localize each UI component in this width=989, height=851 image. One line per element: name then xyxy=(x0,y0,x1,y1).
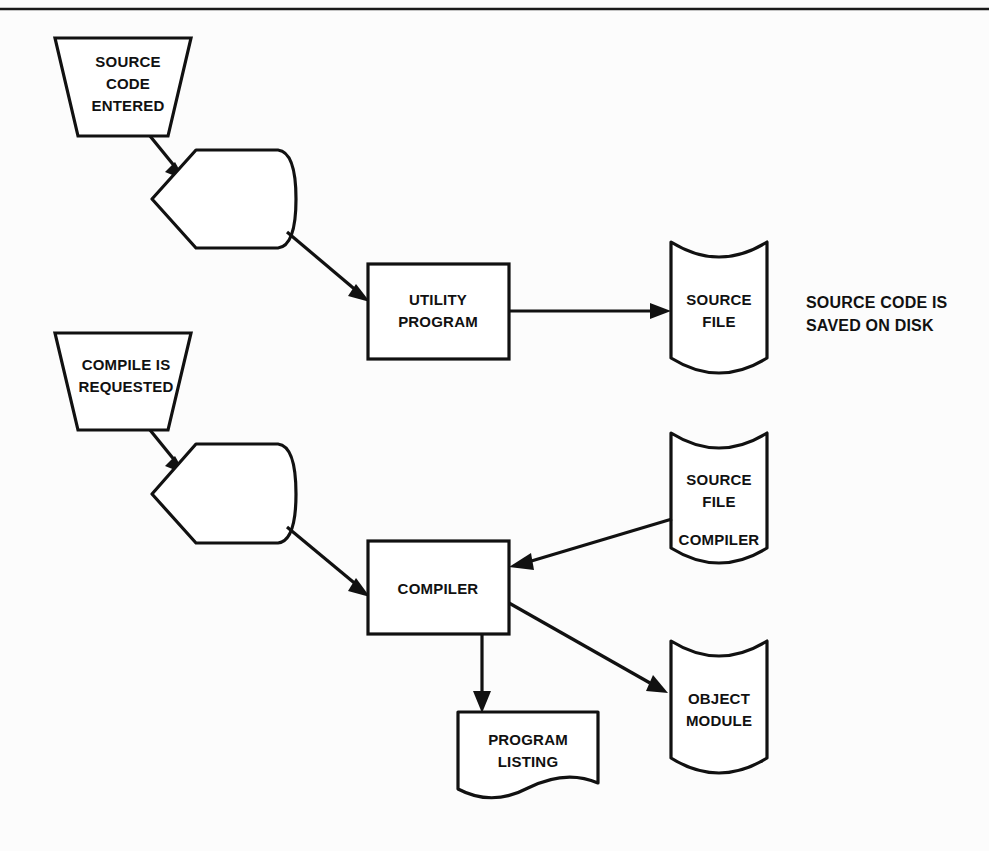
node-compiler-line1: COMPILER xyxy=(398,580,479,597)
node-object-module-disk: OBJECT MODULE xyxy=(671,641,767,773)
stored-data-drum-object-module xyxy=(671,641,767,773)
node-source-file-disk-line1: SOURCE xyxy=(686,291,751,308)
node-source-code-entered-line1: SOURCE xyxy=(95,53,160,70)
node-source-code-entered-line3: ENTERED xyxy=(91,97,164,114)
node-compile-is-requested-line1: COMPILE IS xyxy=(82,356,171,373)
node-utility-program: UTILITY PROGRAM xyxy=(368,264,509,359)
node-compile-is-requested: COMPILE IS REQUESTED xyxy=(55,333,191,430)
node-utility-program-line2: PROGRAM xyxy=(398,313,478,330)
node-source-file-compiler-disk-line1: SOURCE xyxy=(686,471,751,488)
node-source-file-compiler-disk-line3: COMPILER xyxy=(679,531,760,548)
node-source-file-disk-line2: FILE xyxy=(702,313,735,330)
annotation-source-code-saved-line1: SOURCE CODE IS xyxy=(806,294,948,311)
node-program-listing-document: PROGRAM LISTING xyxy=(458,712,598,798)
node-compiler: COMPILER xyxy=(368,541,509,634)
annotation-source-code-saved: SOURCE CODE IS SAVED ON DISK xyxy=(806,294,948,334)
node-object-module-disk-line1: OBJECT xyxy=(688,690,750,707)
flowchart-diagram: SOURCE CODE ENTERED UTILITY PROGRAM xyxy=(0,0,989,851)
arrowhead-source-file-compiler-to-compiler xyxy=(509,553,534,570)
node-object-module-disk-line2: MODULE xyxy=(686,712,752,729)
annotation-source-code-saved-line2: SAVED ON DISK xyxy=(806,317,934,334)
node-utility-program-line1: UTILITY xyxy=(409,291,467,308)
node-source-code-entered: SOURCE CODE ENTERED xyxy=(55,38,191,136)
arrowhead-utility-program-to-source-file xyxy=(650,303,671,319)
node-source-file-compiler-disk-line2: FILE xyxy=(702,493,735,510)
arrowhead-compiler-to-object-module xyxy=(646,675,668,693)
node-compile-is-requested-line2: REQUESTED xyxy=(78,378,173,395)
node-source-file-compiler-disk: SOURCE FILE COMPILER xyxy=(671,433,767,563)
connector-compiler-to-program-listing xyxy=(473,634,491,713)
connector-source-file-compiler-to-compiler xyxy=(509,519,672,570)
node-program-listing-document-line1: PROGRAM xyxy=(488,731,568,748)
connector-display-to-compiler xyxy=(287,527,370,597)
connector-utility-program-to-source-file xyxy=(509,303,671,319)
rectangle-process-utility-program xyxy=(368,264,509,359)
arrowhead-compiler-to-program-listing xyxy=(473,691,491,713)
connector-compiler-to-object-module xyxy=(509,603,668,693)
flowchart-canvas: SOURCE CODE ENTERED UTILITY PROGRAM xyxy=(0,0,989,851)
node-source-code-entered-line2: CODE xyxy=(106,75,150,92)
connector-display-to-utility-program xyxy=(287,232,370,302)
node-program-listing-document-line2: LISTING xyxy=(498,753,559,770)
node-source-file-disk: SOURCE FILE xyxy=(671,242,767,373)
